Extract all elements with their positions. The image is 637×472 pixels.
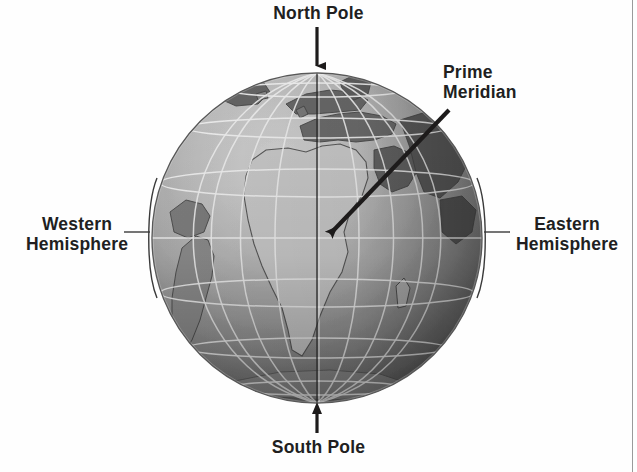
globe-sphere <box>152 73 482 404</box>
label-north-pole: North Pole <box>0 3 637 23</box>
label-western-hemisphere: Western Hemisphere <box>8 214 146 255</box>
label-eastern-hemisphere: Eastern Hemisphere <box>498 214 636 255</box>
label-south-pole: South Pole <box>0 437 637 457</box>
south-pole-arrow <box>312 402 322 433</box>
earth-hemispheres-diagram: North Pole Prime Meridian Western Hemisp… <box>0 0 637 472</box>
label-prime-meridian: Prime Meridian <box>443 62 517 103</box>
